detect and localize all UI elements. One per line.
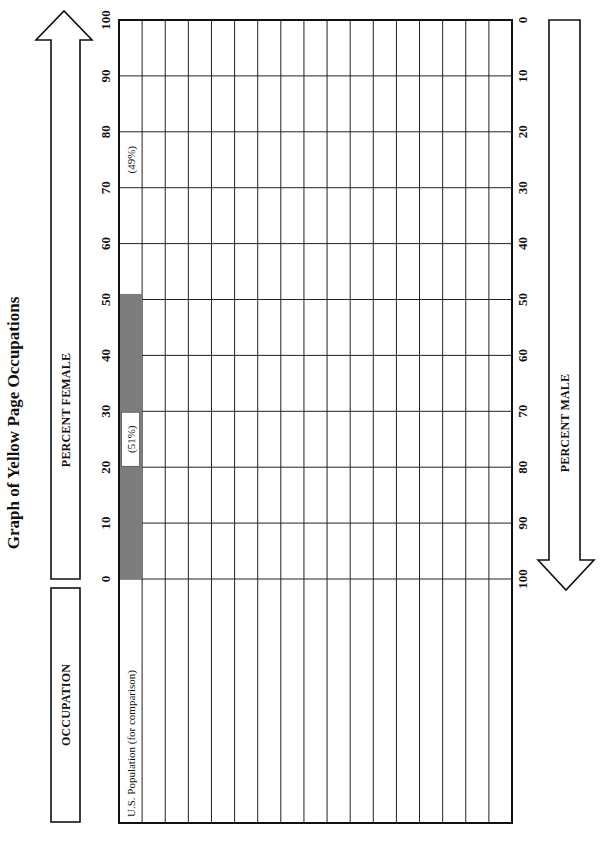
arrow-down-icon bbox=[538, 20, 594, 590]
male-tick-label: 0 bbox=[515, 17, 530, 24]
occupation-label: OCCUPATION bbox=[59, 664, 73, 746]
male-tick-label: 10 bbox=[515, 69, 530, 82]
percent-annotation: (51%) bbox=[125, 425, 138, 453]
female-tick-label: 70 bbox=[98, 181, 113, 194]
male-axis-ticks: 1009080706050403020100 bbox=[515, 17, 530, 589]
male-tick-label: 80 bbox=[515, 461, 530, 474]
male-tick-label: 100 bbox=[515, 569, 530, 589]
male-tick-label: 90 bbox=[515, 517, 530, 530]
male-tick-label: 20 bbox=[515, 125, 530, 138]
female-tick-label: 20 bbox=[98, 461, 113, 474]
female-tick-label: 90 bbox=[98, 69, 113, 82]
percent-female-label: PERCENT FEMALE bbox=[59, 353, 73, 467]
female-tick-label: 30 bbox=[98, 405, 113, 418]
male-tick-label: 40 bbox=[515, 237, 530, 250]
female-tick-label: 60 bbox=[98, 237, 113, 250]
yellow-page-occupations-chart: Graph of Yellow Page Occupations PERCENT… bbox=[0, 0, 601, 853]
chart-frame bbox=[119, 20, 512, 823]
chart-grid bbox=[119, 20, 512, 823]
male-tick-label: 70 bbox=[515, 405, 530, 418]
female-tick-label: 40 bbox=[98, 349, 113, 362]
occupation-row-label: U.S. Population (for comparison) bbox=[125, 670, 138, 817]
percent-male-label: PERCENT MALE bbox=[558, 374, 572, 473]
female-tick-label: 10 bbox=[98, 517, 113, 530]
arrow-up-icon bbox=[36, 11, 92, 579]
chart-title: Graph of Yellow Page Occupations bbox=[4, 296, 23, 549]
female-axis-ticks: 0102030405060708090100 bbox=[98, 10, 113, 582]
male-tick-label: 50 bbox=[515, 293, 530, 306]
percent-annotation: (49%) bbox=[125, 146, 138, 174]
female-tick-label: 0 bbox=[98, 576, 113, 583]
female-tick-label: 80 bbox=[98, 125, 113, 138]
row-labels: U.S. Population (for comparison) bbox=[125, 670, 138, 817]
female-tick-label: 100 bbox=[98, 10, 113, 30]
male-tick-label: 60 bbox=[515, 349, 530, 362]
female-tick-label: 50 bbox=[98, 293, 113, 306]
male-tick-label: 30 bbox=[515, 181, 530, 194]
